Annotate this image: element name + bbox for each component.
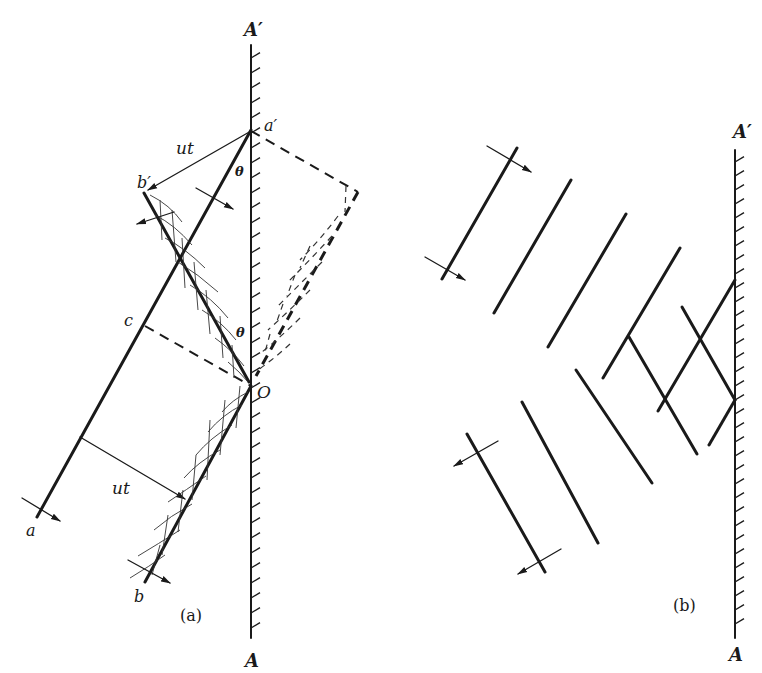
label-a-bottom: A — [243, 650, 259, 671]
virtual-wavelets — [258, 216, 338, 370]
figure-canvas: A′ A a′ b′ c O a b ut ut θ θ (a) — [0, 0, 762, 673]
ut-lower-arrow — [80, 437, 185, 499]
label-point-a-prime: a′ — [264, 116, 278, 135]
label-ut-lower: ut — [112, 478, 130, 498]
propagation-arrows-b — [425, 146, 561, 574]
label-point-b-prime: b′ — [137, 173, 151, 192]
huygens-wavelets-lower — [130, 386, 248, 578]
incident-wavefronts-b — [442, 148, 735, 445]
label-point-o: O — [257, 382, 271, 402]
label-a-prime-top-b: A′ — [731, 121, 752, 142]
label-theta-upper: θ — [235, 164, 244, 179]
label-point-b: b — [134, 587, 144, 606]
dashed-a-prime-to-apex — [251, 131, 358, 192]
panel-b: A′ A (b) — [425, 121, 752, 665]
label-point-c: c — [124, 311, 133, 330]
panel-a: A′ A a′ b′ c O a b ut ut θ θ (a) — [22, 19, 358, 671]
label-point-a: a — [26, 521, 36, 540]
label-a-prime-top: A′ — [242, 19, 263, 40]
caption-panel-a: (a) — [180, 606, 202, 625]
dashed-cone-edge — [256, 192, 358, 376]
label-theta-lower: θ — [236, 325, 245, 340]
wavefront-b-line — [145, 386, 251, 582]
caption-panel-b: (b) — [673, 596, 696, 615]
label-ut-upper: ut — [176, 138, 194, 158]
propagation-arrows-a — [22, 188, 233, 583]
label-a-bottom-b: A — [727, 644, 743, 665]
mirror-wall-b — [735, 150, 744, 638]
